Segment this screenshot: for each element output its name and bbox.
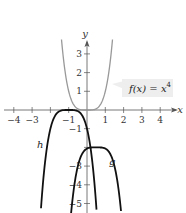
x-tick-label: 3 <box>139 115 145 125</box>
y-tick-label: −3 <box>69 161 83 171</box>
ticks: −4−3−11234321−1−3−4−5 <box>7 49 163 209</box>
y-axis-label: y <box>81 28 88 39</box>
x-tick-label: 1 <box>102 115 108 125</box>
y-tick-label: 3 <box>76 49 82 59</box>
g-curve-label: g <box>109 156 115 167</box>
f-callout-exponent: 4 <box>167 81 172 89</box>
f-callout-text: f(x) = x4 <box>128 81 172 94</box>
f-callout-main: f(x) = x <box>128 83 167 94</box>
x-tick-label: −3 <box>25 115 39 125</box>
y-tick-label: −5 <box>69 199 83 209</box>
f-callout: f(x) = x4 <box>112 79 173 97</box>
x-tick-label: −4 <box>7 115 21 125</box>
axes <box>4 40 178 213</box>
y-tick-label: 2 <box>76 68 82 78</box>
graph-canvas: −4−3−11234321−1−3−4−5 y x h g f(x) = x4 <box>0 0 186 213</box>
y-tick-label: 1 <box>76 86 82 96</box>
x-axis-label: x <box>177 104 183 115</box>
y-tick-label: −1 <box>69 124 82 134</box>
h-curve-label: h <box>37 139 43 150</box>
x-tick-label: 2 <box>121 115 127 125</box>
x-tick-label: 4 <box>157 115 163 125</box>
